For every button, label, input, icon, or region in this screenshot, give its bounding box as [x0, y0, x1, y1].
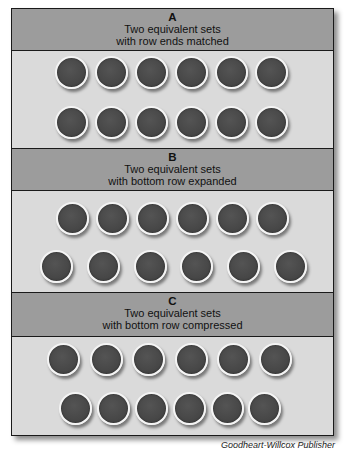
section-a-header: A Two equivalent sets with row ends matc… — [12, 9, 333, 51]
section-b-line1: Two equivalent sets — [12, 163, 333, 175]
counter-chip — [90, 343, 123, 376]
counter-chip — [55, 106, 88, 139]
publisher-credit: Goodheart-Willcox Publisher — [221, 440, 335, 450]
counter-chip — [227, 250, 260, 283]
section-a-letter: A — [12, 9, 333, 23]
section-b-line2: with bottom row expanded — [12, 175, 333, 187]
counter-chip — [255, 56, 288, 89]
section-a-line1: Two equivalent sets — [12, 23, 333, 35]
counter-chip — [211, 392, 244, 425]
counter-chip — [175, 343, 208, 376]
counter-chip — [59, 392, 92, 425]
counter-chip — [95, 56, 128, 89]
counter-chip — [40, 250, 73, 283]
counter-chip — [255, 106, 288, 139]
section-c-letter: C — [12, 293, 333, 307]
counter-chip — [132, 343, 165, 376]
counter-chip — [136, 202, 169, 235]
counter-chip — [173, 392, 206, 425]
counter-chip — [259, 343, 292, 376]
section-a-line2: with row ends matched — [12, 35, 333, 47]
counter-chip — [135, 106, 168, 139]
section-b-letter: B — [12, 149, 333, 163]
counter-chip — [274, 250, 307, 283]
counter-chip — [248, 392, 281, 425]
section-c-line1: Two equivalent sets — [12, 307, 333, 319]
counter-chip — [216, 202, 249, 235]
counter-chip — [95, 106, 128, 139]
counter-chip — [47, 343, 80, 376]
section-c-header: C Two equivalent sets with bottom row co… — [12, 293, 333, 337]
counter-chip — [87, 250, 120, 283]
counter-chip — [215, 106, 248, 139]
counter-chip — [175, 56, 208, 89]
counter-chip — [176, 202, 209, 235]
counter-chip — [134, 250, 167, 283]
section-b-header: B Two equivalent sets with bottom row ex… — [12, 149, 333, 191]
counter-chip — [56, 202, 89, 235]
counter-chip — [217, 343, 250, 376]
counter-chip — [180, 250, 213, 283]
counter-chip — [97, 392, 130, 425]
counter-chip — [135, 392, 168, 425]
counter-chip — [175, 106, 208, 139]
counter-chip — [96, 202, 129, 235]
counter-chip — [215, 56, 248, 89]
counter-chip — [55, 56, 88, 89]
counter-chip — [135, 56, 168, 89]
diagram-frame: A Two equivalent sets with row ends matc… — [11, 8, 334, 436]
section-c-line2: with bottom row compressed — [12, 319, 333, 331]
counter-chip — [256, 202, 289, 235]
